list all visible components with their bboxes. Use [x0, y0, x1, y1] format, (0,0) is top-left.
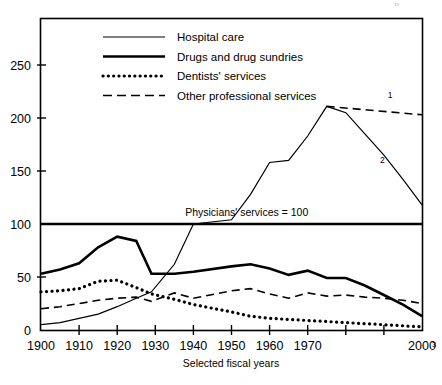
x-axis-footnote: 3: [432, 340, 436, 349]
clipped-page-header: p..............: [394, 0, 436, 6]
x-tick-label: 1960: [256, 339, 284, 353]
line-chart-canvas: 050100150200250 190019101920193019401950…: [0, 0, 442, 385]
annotation-group: Physicians' services = 10012: [185, 90, 393, 218]
series-footnote-label: 1: [388, 90, 393, 100]
y-tick-label: 100: [10, 218, 31, 232]
chart-figure: p.............. 050100150200250 19001910…: [0, 0, 442, 385]
x-tick-label: 1910: [65, 339, 93, 353]
legend-item-label: Hospital care: [177, 31, 244, 43]
y-tick-label: 150: [10, 165, 31, 179]
legend-item-label: Other professional services: [177, 90, 317, 102]
series-line: [41, 237, 422, 317]
x-tick-label: 1930: [141, 339, 169, 353]
x-tick-label: 1920: [103, 339, 131, 353]
y-tick-label: 50: [17, 271, 31, 285]
y-tick-label: 250: [10, 59, 31, 73]
y-tick-label: 0: [24, 324, 31, 338]
chart-legend: Hospital careDrugs and drug sundriesDent…: [103, 31, 317, 102]
legend-item-label: Dentists' services: [177, 70, 266, 82]
x-axis-title: Selected fiscal years: [183, 357, 279, 369]
x-tick-label: 1940: [179, 339, 207, 353]
x-tick-label: 1950: [218, 339, 246, 353]
y-tick-label: 200: [10, 112, 31, 126]
series-line: [41, 280, 422, 327]
reference-line-label: Physicians' services = 100: [185, 206, 308, 218]
x-tick-label: 1900: [27, 339, 55, 353]
plot-frame: [41, 19, 423, 331]
x-axis: 1900191019201930194019501960197020003: [27, 325, 436, 353]
series-line: [41, 289, 422, 309]
legend-item-label: Drugs and drug sundries: [177, 51, 303, 63]
series-footnote-label: 2: [380, 155, 385, 165]
x-tick-label: 1970: [294, 339, 322, 353]
